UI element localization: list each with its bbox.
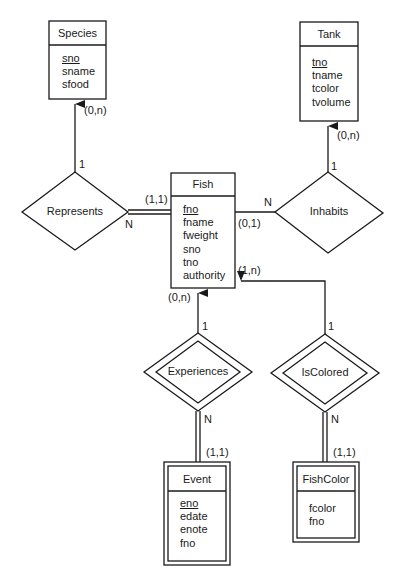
- inhabits-fish-participation-label: (0,1): [238, 217, 261, 230]
- tank-attr-tcolor: tcolor: [312, 82, 351, 95]
- fishcolor-attributes: fcolor fno: [309, 502, 336, 528]
- experiences-fish-cardinality-label: 1: [202, 320, 208, 333]
- event-attr-enote: enote: [180, 523, 208, 536]
- species-entity-name: Species: [49, 27, 106, 39]
- fish-attr-sno: sno: [183, 243, 225, 256]
- iscolored-fish-link: [241, 281, 325, 334]
- event-attr-eno: eno: [180, 497, 208, 510]
- fish-entity-name: Fish: [171, 178, 235, 190]
- fish-attr-tno: tno: [183, 256, 225, 269]
- tank-cardinality-label: 1: [331, 160, 337, 173]
- inhabits-relationship-name: Inhabits: [275, 205, 383, 217]
- represents-relationship-name: Represents: [22, 205, 128, 217]
- iscolored-fishcolor-participation-label: (1,1): [333, 446, 356, 459]
- experiences-event-cardinality-label: N: [204, 413, 212, 426]
- fish-attr-fweight: fweight: [183, 229, 225, 242]
- represents-fish-participation-label: (1,1): [145, 193, 168, 206]
- iscolored-fish-participation-label: (1,n): [238, 264, 261, 277]
- species-cardinality-label: 1: [79, 158, 85, 171]
- inhabits-fish-cardinality-label: N: [264, 196, 272, 209]
- experiences-event-participation-label: (1,1): [206, 446, 229, 459]
- fishcolor-attr-fcolor: fcolor: [309, 502, 336, 515]
- species-attr-sname: sname: [62, 65, 95, 78]
- event-attr-fno: fno: [180, 537, 208, 550]
- species-attr-sno: sno: [62, 52, 95, 65]
- fish-attr-fno: fno: [183, 203, 225, 216]
- tank-attributes: tno tname tcolor tvolume: [312, 56, 351, 109]
- tank-attr-tname: tname: [312, 69, 351, 82]
- fish-attr-authority: authority: [183, 269, 225, 282]
- species-attr-sfood: sfood: [62, 78, 95, 91]
- tank-participation-label: (0,n): [337, 129, 360, 142]
- event-entity-name: Event: [168, 473, 226, 485]
- fish-attr-fname: fname: [183, 216, 225, 229]
- tank-attr-tvolume: tvolume: [312, 96, 351, 109]
- tank-attr-tno: tno: [312, 56, 351, 69]
- fishcolor-entity-name: FishColor: [297, 473, 355, 485]
- fish-attributes: fno fname fweight sno tno authority: [183, 203, 225, 282]
- experiences-relationship-name: Experiences: [144, 365, 252, 377]
- experiences-fish-participation-label: (0,n): [168, 291, 191, 304]
- represents-fish-cardinality-label: N: [125, 218, 133, 231]
- species-attributes: sno sname sfood: [62, 52, 95, 92]
- event-attributes: eno edate enote fno: [180, 497, 208, 550]
- event-attr-edate: edate: [180, 510, 208, 523]
- tank-entity-name: Tank: [300, 28, 358, 40]
- fishcolor-attr-fno: fno: [309, 515, 336, 528]
- iscolored-fish-cardinality-label: 1: [328, 320, 334, 333]
- iscolored-fishcolor-cardinality-label: N: [331, 413, 339, 426]
- species-participation-label: (0,n): [84, 104, 107, 117]
- iscolored-relationship-name: IsColored: [271, 366, 379, 378]
